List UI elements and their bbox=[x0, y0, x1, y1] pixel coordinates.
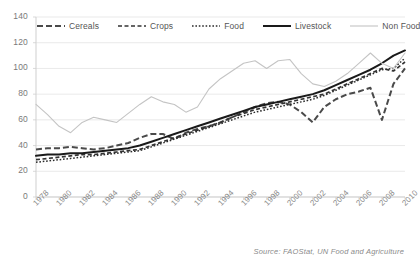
y-axis-tick-label: 80 bbox=[2, 89, 28, 98]
y-axis-tick-label: 140 bbox=[2, 12, 28, 21]
legend-item-livestock[interactable]: Livestock bbox=[262, 21, 331, 31]
y-axis-tick-label: 100 bbox=[2, 63, 28, 72]
series-line-livestock bbox=[36, 50, 405, 155]
legend-item-cereals[interactable]: Cereals bbox=[36, 21, 99, 31]
legend-label: Crops bbox=[150, 21, 173, 31]
legend-swatch-solid-thick bbox=[262, 21, 292, 31]
legend-label: Livestock bbox=[295, 21, 331, 31]
legend-label: Non Food bbox=[382, 21, 420, 31]
legend-item-crops[interactable]: Crops bbox=[117, 21, 173, 31]
y-axis-tick-label: 60 bbox=[2, 115, 28, 124]
legend-item-food[interactable]: Food bbox=[191, 21, 244, 31]
chart-legend: CerealsCropsFoodLivestockNon Food bbox=[36, 18, 408, 34]
series-line-food bbox=[36, 58, 405, 162]
legend-item-non-food[interactable]: Non Food bbox=[349, 21, 420, 31]
legend-swatch-dotted bbox=[191, 21, 221, 31]
y-axis-tick-label: 20 bbox=[2, 166, 28, 175]
legend-label: Cereals bbox=[69, 21, 99, 31]
legend-swatch-solid-thin bbox=[349, 21, 379, 31]
y-axis-tick-label: 0 bbox=[2, 192, 28, 201]
legend-label: Food bbox=[224, 21, 244, 31]
y-axis-tick-label: 120 bbox=[2, 38, 28, 47]
legend-swatch-dashed-thick bbox=[36, 21, 66, 31]
series-line-crops bbox=[36, 62, 405, 160]
source-note: Source: FAOStat, UN Food and Agriculture bbox=[253, 247, 404, 256]
legend-swatch-dashed-medium bbox=[117, 21, 147, 31]
series-line-cereals bbox=[36, 68, 405, 149]
y-axis-tick-label: 40 bbox=[2, 141, 28, 150]
